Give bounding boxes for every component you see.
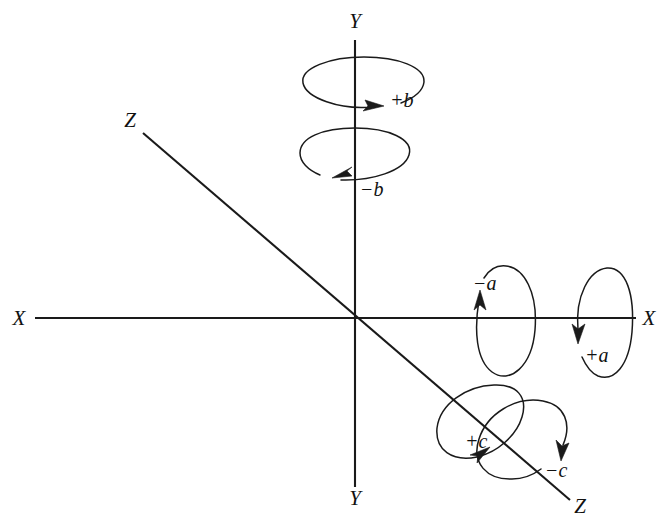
rotation-convention-diagram: Y Y X X Z Z +b −b −a +a +c −c [0,0,672,530]
plus-b-arrowhead [363,100,384,111]
rotation-label-plus-b: +b [390,89,414,111]
z-axis-line [143,133,570,500]
diagram-canvas: Y Y X X Z Z +b −b −a +a +c −c [0,0,672,530]
minus-b-arrowhead [332,167,352,178]
axis-label-z-upper: Z [124,108,136,132]
axis-label-x-left: X [12,306,27,330]
axis-label-y-top: Y [349,9,363,33]
rotation-label-plus-a: +a [585,344,609,366]
minus-c-arrowhead [556,440,569,461]
axis-label-x-right: X [642,306,657,330]
rotation-label-minus-c: −c [545,459,567,481]
axis-label-z-lower: Z [574,494,586,518]
rotation-label-minus-b: −b [360,178,384,200]
axis-label-y-bottom: Y [349,486,363,510]
rotation-label-minus-a: −a [473,272,497,294]
rotation-label-plus-c: +c [465,430,487,452]
